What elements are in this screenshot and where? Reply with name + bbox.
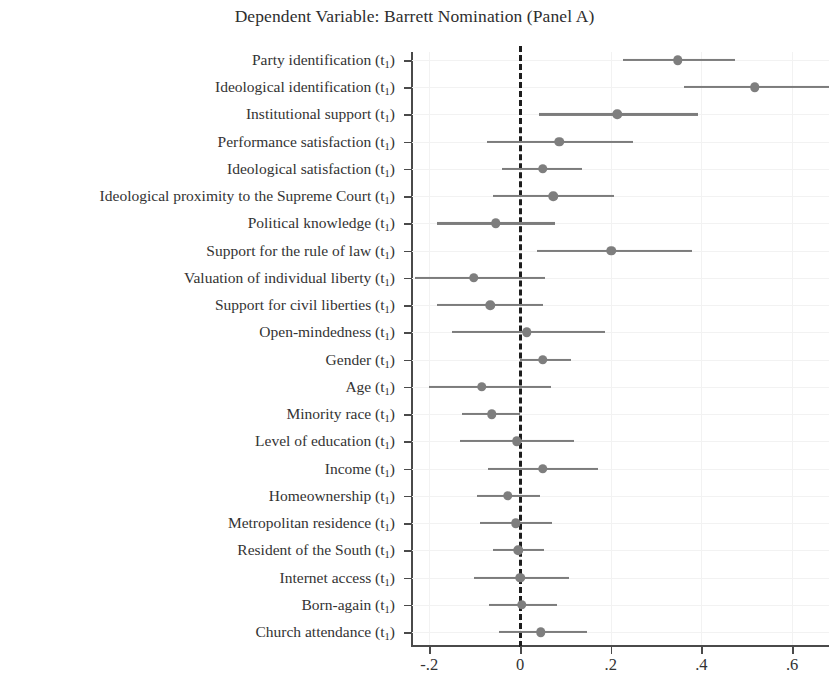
point-estimate-marker [538, 355, 548, 365]
x-axis-tick-label: .4 [695, 655, 707, 675]
y-axis-tick [404, 632, 412, 634]
y-axis-tick-label: Institutional support (t1) [0, 107, 404, 123]
y-axis-tick-label: Performance satisfaction (t1) [0, 134, 404, 150]
y-axis-tick-label: Church attendance (t1) [0, 624, 404, 640]
y-axis-tick [404, 441, 412, 443]
x-axis-tick-label: .6 [786, 655, 798, 675]
y-axis-tick [404, 305, 412, 307]
x-axis-tick-label: -.2 [420, 655, 438, 675]
point-estimate-marker [538, 164, 548, 174]
point-estimate-marker [536, 627, 546, 637]
y-axis-tick [404, 387, 412, 389]
y-axis-tick-label: Ideological identification (t1) [0, 79, 404, 95]
y-axis-tick [404, 360, 412, 362]
point-estimate-marker [673, 55, 683, 65]
y-axis-tick-label: Party identification (t1) [0, 52, 404, 68]
x-axis-tick [429, 646, 431, 654]
y-axis-tick [404, 578, 412, 580]
point-estimate-marker [487, 409, 497, 419]
gridline-horizontal [412, 632, 829, 633]
y-axis-tick-label: Support for the rule of law (t1) [0, 243, 404, 259]
x-axis-tick [520, 646, 522, 654]
gridline-horizontal [412, 605, 829, 606]
point-estimate-marker [513, 546, 523, 556]
y-axis-tick [404, 414, 412, 416]
point-estimate-marker [606, 246, 616, 256]
gridline-vertical [429, 52, 430, 645]
x-axis-spine [411, 645, 829, 647]
y-axis-tick [404, 550, 412, 552]
y-axis-tick-label: Minority race (t1) [0, 406, 404, 422]
gridline-horizontal [412, 523, 829, 524]
point-estimate-marker [515, 573, 525, 583]
point-estimate-marker [538, 464, 548, 474]
y-axis-tick-label: Ideological satisfaction (t1) [0, 161, 404, 177]
y-axis-tick [404, 469, 412, 471]
y-axis-tick-label: Support for civil liberties (t1) [0, 297, 404, 313]
y-axis-tick [404, 523, 412, 525]
gridline-horizontal [412, 496, 829, 497]
y-axis-tick-label: Ideological proximity to the Supreme Cou… [0, 188, 404, 204]
x-axis-tick [792, 646, 794, 654]
y-axis-tick [404, 496, 412, 498]
y-axis-tick [404, 332, 412, 334]
point-estimate-marker [469, 273, 479, 283]
gridline-vertical [792, 52, 793, 645]
x-axis-tick [611, 646, 613, 654]
zero-reference-line [519, 46, 522, 647]
point-estimate-marker [485, 300, 495, 310]
x-axis-tick-label: 0 [516, 655, 524, 675]
y-axis-label-column: Party identification (t1)Ideological ide… [0, 0, 404, 680]
confidence-interval-bar [415, 277, 545, 279]
y-axis-tick [404, 142, 412, 144]
point-estimate-marker [554, 137, 564, 147]
point-estimate-marker [511, 518, 521, 528]
y-axis-tick [404, 196, 412, 198]
y-axis-tick [404, 87, 412, 89]
y-axis-tick-label: Valuation of individual liberty (t1) [0, 270, 404, 286]
y-axis-tick [404, 114, 412, 116]
point-estimate-marker [612, 110, 622, 120]
gridline-horizontal [412, 360, 829, 361]
gridline-horizontal [412, 469, 829, 470]
y-axis-tick [404, 60, 412, 62]
point-estimate-marker [491, 219, 501, 229]
coefficient-plot: Dependent Variable: Barrett Nomination (… [0, 0, 829, 680]
y-axis-tick-label: Income (t1) [0, 461, 404, 477]
y-axis-tick-label: Metropolitan residence (t1) [0, 515, 404, 531]
y-axis-tick-label: Homeownership (t1) [0, 488, 404, 504]
gridline-horizontal [412, 196, 829, 197]
gridline-horizontal [412, 550, 829, 551]
y-axis-tick [404, 605, 412, 607]
gridline-horizontal [412, 60, 829, 61]
point-estimate-marker [517, 600, 527, 610]
y-axis-tick [404, 169, 412, 171]
x-axis-tick [701, 646, 703, 654]
gridline-vertical [701, 52, 702, 645]
y-axis-tick-label: Resident of the South (t1) [0, 543, 404, 559]
point-estimate-marker [477, 382, 487, 392]
confidence-interval-bar [429, 386, 551, 388]
y-axis-tick-label: Political knowledge (t1) [0, 216, 404, 232]
point-estimate-marker [522, 328, 532, 338]
y-axis-tick-label: Age (t1) [0, 379, 404, 395]
point-estimate-marker [503, 491, 513, 501]
y-axis-tick-label: Born-again (t1) [0, 597, 404, 613]
y-axis-tick-label: Gender (t1) [0, 352, 404, 368]
point-estimate-marker [548, 191, 558, 201]
y-axis-tick [404, 251, 412, 253]
x-axis-tick-label: .2 [605, 655, 617, 675]
point-estimate-marker [512, 437, 522, 447]
y-axis-tick-label: Internet access (t1) [0, 570, 404, 586]
point-estimate-marker [750, 82, 760, 92]
y-axis-tick [404, 278, 412, 280]
y-axis-tick [404, 223, 412, 225]
y-axis-tick-label: Level of education (t1) [0, 434, 404, 450]
y-axis-tick-label: Open-mindedness (t1) [0, 325, 404, 341]
gridline-horizontal [412, 169, 829, 170]
